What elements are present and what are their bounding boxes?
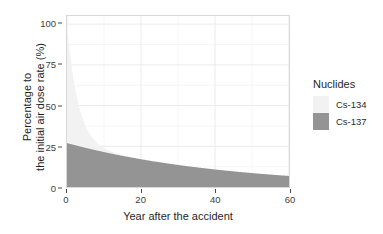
legend-item[interactable]: Cs-137 bbox=[313, 113, 383, 130]
y-axis-title-line2: the initial air dose rate (%) bbox=[34, 7, 47, 207]
y-axis-tick-mark bbox=[58, 23, 62, 24]
y-axis-tick-mark bbox=[58, 146, 62, 147]
legend: Nuclides Cs-134Cs-137 bbox=[313, 78, 383, 130]
x-axis-tick-label: 0 bbox=[63, 194, 68, 205]
y-axis-tick-mark bbox=[58, 188, 62, 189]
x-axis-title: Year after the accident bbox=[66, 210, 290, 222]
legend-item-label: Cs-134 bbox=[336, 99, 367, 110]
y-axis-tick-label: 25 bbox=[45, 141, 56, 152]
legend-items: Cs-134Cs-137 bbox=[313, 96, 383, 130]
radioactive-decay-area-chart: 0255075100 0204060 Year after the accide… bbox=[0, 0, 383, 234]
y-axis-title-line1: Percentage to bbox=[21, 7, 34, 207]
y-axis-tick-label: 0 bbox=[51, 183, 56, 194]
y-axis-tick-label: 75 bbox=[45, 59, 56, 70]
legend-item[interactable]: Cs-134 bbox=[313, 96, 383, 113]
x-axis-tick-mark bbox=[141, 189, 142, 193]
y-axis-title: Percentage to the initial air dose rate … bbox=[21, 7, 47, 207]
legend-title: Nuclides bbox=[313, 78, 383, 90]
x-axis-tick-label: 20 bbox=[135, 194, 146, 205]
x-axis-tick-label: 40 bbox=[210, 194, 221, 205]
x-axis-tick-label: 60 bbox=[285, 194, 296, 205]
y-axis-tick-mark bbox=[58, 105, 62, 106]
y-axis-tick-mark bbox=[58, 64, 62, 65]
x-axis-tick-mark bbox=[215, 189, 216, 193]
x-axis-tick-mark bbox=[66, 189, 67, 193]
plot-panel bbox=[66, 15, 290, 188]
legend-swatch-icon bbox=[313, 113, 329, 130]
x-axis-tick-mark bbox=[290, 189, 291, 193]
legend-swatch-icon bbox=[313, 96, 329, 113]
plot-area-svg bbox=[67, 16, 289, 187]
y-axis-tick-label: 50 bbox=[45, 100, 56, 111]
legend-item-label: Cs-137 bbox=[336, 116, 367, 127]
